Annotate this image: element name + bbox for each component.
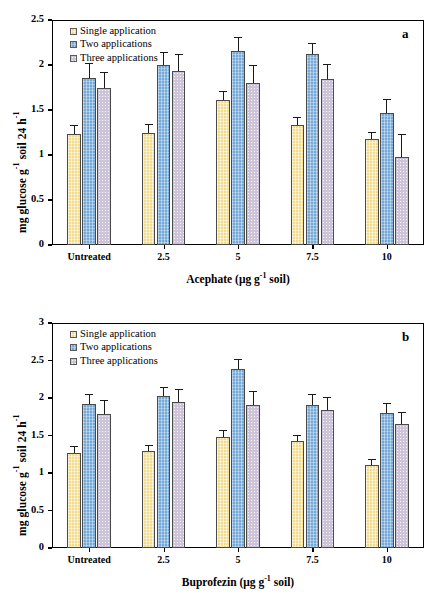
y-axis-tick-mark <box>48 109 52 110</box>
error-bar-stem <box>401 412 402 425</box>
legend-swatch-icon <box>70 358 77 365</box>
error-bar-cap <box>160 52 168 53</box>
legend-item-1[interactable]: Two applications <box>70 342 158 354</box>
y-axis-tick-label: 0 <box>8 541 44 552</box>
error-bar-cap <box>383 403 391 404</box>
bar-0-1-2 <box>172 71 186 245</box>
error-bar-cap <box>383 99 391 100</box>
legend-label: Two applications <box>80 38 152 51</box>
error-bar-cap <box>160 387 168 388</box>
error-bar-cap <box>308 43 316 44</box>
error-bar-stem <box>253 391 254 405</box>
legend: Single applicationTwo applicationsThree … <box>70 328 158 369</box>
x-axis-tick-label: 10 <box>342 251 432 262</box>
bar-1-2-1 <box>231 369 245 548</box>
error-bar-cap <box>293 435 301 436</box>
legend-item-0[interactable]: Single application <box>70 328 158 340</box>
error-bar-stem <box>163 387 164 396</box>
legend-item-0[interactable]: Single application <box>70 25 158 37</box>
bar-1-3-2 <box>321 410 335 548</box>
bar-0-0-0 <box>67 134 81 245</box>
error-bar-stem <box>74 125 75 134</box>
bar-1-4-1 <box>380 413 394 548</box>
bar-0-0-2 <box>97 88 111 245</box>
error-bar-stem <box>327 397 328 411</box>
error-bar-stem <box>312 43 313 54</box>
legend-swatch-icon <box>70 55 77 62</box>
error-bar-stem <box>238 359 239 369</box>
y-axis-tick-mark <box>48 435 52 436</box>
bar-0-2-0 <box>216 100 230 245</box>
bar-1-2-2 <box>246 405 260 548</box>
legend-item-1[interactable]: Two applications <box>70 39 158 51</box>
panel-letter-b: b <box>402 329 409 345</box>
error-bar-stem <box>104 400 105 414</box>
x-axis-tick-mark <box>238 245 239 249</box>
error-bar-cap <box>234 359 242 360</box>
legend-swatch-icon <box>70 41 77 48</box>
y-axis-tick-label: 0 <box>8 238 44 249</box>
error-bar-stem <box>223 91 224 100</box>
bar-1-0-2 <box>97 414 111 548</box>
y-axis-tick-mark <box>48 64 52 65</box>
chart-panel-b: 00.511.522.53mg glucose g-1 soil 24 h-1U… <box>0 305 447 609</box>
legend-item-2[interactable]: Three applications <box>70 52 158 64</box>
bar-1-1-1 <box>157 396 171 548</box>
bar-0-3-2 <box>321 79 335 245</box>
bar-0-4-0 <box>365 139 379 245</box>
error-bar-cap <box>100 72 108 73</box>
y-axis-tick-mark <box>48 360 52 361</box>
x-axis-tick-mark <box>312 245 313 249</box>
bar-0-4-2 <box>395 157 409 245</box>
legend-swatch-icon <box>70 331 77 338</box>
error-bar-cap <box>100 400 108 401</box>
y-axis-tick-mark <box>48 547 52 548</box>
y-axis-tick-mark <box>48 19 52 20</box>
error-bar-cap <box>145 124 153 125</box>
error-bar-cap <box>323 64 331 65</box>
x-axis-tick-mark <box>164 245 165 249</box>
bar-0-3-1 <box>306 54 320 245</box>
x-axis-tick-mark <box>387 548 388 552</box>
error-bar-stem <box>312 394 313 405</box>
bar-1-0-1 <box>82 404 96 548</box>
error-bar-cap <box>70 125 78 126</box>
bar-1-3-0 <box>291 441 305 548</box>
error-bar-cap <box>70 446 78 447</box>
error-bar-cap <box>175 54 183 55</box>
bar-1-3-1 <box>306 405 320 548</box>
error-bar-stem <box>386 99 387 113</box>
bar-0-2-1 <box>231 51 245 245</box>
error-bar-stem <box>386 403 387 414</box>
y-axis-title: mg glucose g-1 soil 24 h-1 <box>12 341 28 536</box>
bar-0-2-2 <box>246 83 260 245</box>
bar-1-4-0 <box>365 465 379 548</box>
x-axis-tick-label: 10 <box>342 554 432 565</box>
y-axis-tick-mark <box>48 472 52 473</box>
bar-1-1-2 <box>172 402 186 548</box>
error-bar-cap <box>323 397 331 398</box>
y-axis-title: mg glucose g-1 soil 24 h-1 <box>12 38 28 233</box>
error-bar-stem <box>253 65 254 83</box>
error-bar-cap <box>368 132 376 133</box>
chart-panel-a: 00.511.522.5mg glucose g-1 soil 24 h-1Un… <box>0 0 447 304</box>
error-bar-stem <box>401 134 402 157</box>
error-bar-stem <box>89 394 90 404</box>
legend-item-2[interactable]: Three applications <box>70 355 158 367</box>
error-bar-cap <box>398 134 406 135</box>
bar-0-1-1 <box>157 65 171 245</box>
error-bar-cap <box>249 65 257 66</box>
legend-swatch-icon <box>70 28 77 35</box>
y-axis-tick-label: 2.5 <box>8 13 44 24</box>
x-axis-tick-mark <box>312 548 313 552</box>
error-bar-cap <box>145 445 153 446</box>
error-bar-cap <box>219 430 227 431</box>
legend-label: Three applications <box>80 52 158 65</box>
y-axis-tick-mark <box>48 199 52 200</box>
error-bar-cap <box>175 389 183 390</box>
error-bar-cap <box>398 412 406 413</box>
panel-letter-a: a <box>402 26 409 42</box>
bar-0-0-1 <box>82 78 96 245</box>
error-bar-stem <box>238 37 239 51</box>
error-bar-stem <box>297 117 298 125</box>
